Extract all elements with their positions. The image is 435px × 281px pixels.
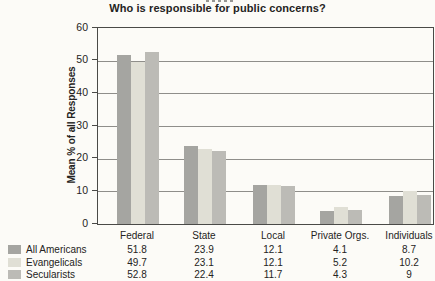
bar bbox=[267, 185, 281, 225]
legend-label: Secularists bbox=[26, 269, 75, 280]
legend-swatch bbox=[8, 258, 21, 267]
data-table: FederalStateLocalPrivate Orgs.Individual… bbox=[0, 226, 435, 281]
chart-title: Who is responsible for public concerns? bbox=[0, 2, 435, 14]
legend-swatch bbox=[8, 270, 21, 279]
bar bbox=[145, 52, 159, 225]
y-axis: 0102030405060 bbox=[0, 27, 97, 223]
bar bbox=[334, 207, 348, 224]
legend-label: All Americans bbox=[26, 244, 87, 255]
value-cell: 8.7 bbox=[367, 244, 435, 255]
bar-group bbox=[184, 28, 226, 224]
bar-group bbox=[389, 28, 431, 224]
value-cell: 10.2 bbox=[367, 257, 435, 268]
y-tick-label: 50 bbox=[58, 54, 88, 65]
bar bbox=[253, 185, 267, 225]
bar bbox=[184, 146, 198, 224]
bar bbox=[389, 196, 403, 224]
bar bbox=[281, 186, 295, 224]
bar bbox=[417, 195, 431, 224]
bar bbox=[403, 191, 417, 224]
legend-label: Evangelicals bbox=[26, 257, 82, 268]
bar-group bbox=[320, 28, 362, 224]
y-tick-label: 10 bbox=[58, 185, 88, 196]
y-tick-label: 60 bbox=[58, 22, 88, 33]
bar bbox=[348, 210, 362, 224]
bar bbox=[320, 211, 334, 224]
bar bbox=[131, 62, 145, 224]
legend-swatch bbox=[8, 245, 21, 254]
bar-group bbox=[117, 28, 159, 224]
y-tick-label: 20 bbox=[58, 152, 88, 163]
value-cell: 9 bbox=[367, 269, 435, 280]
bar bbox=[212, 151, 226, 224]
column-header: Individuals bbox=[367, 230, 435, 241]
figure: Who is responsible for public concerns? … bbox=[0, 0, 435, 281]
y-tick-label: 30 bbox=[58, 120, 88, 131]
plot-area bbox=[97, 27, 434, 225]
bar bbox=[198, 149, 212, 225]
bar-group bbox=[253, 28, 295, 224]
y-tick-label: 40 bbox=[58, 87, 88, 98]
bar bbox=[117, 55, 131, 224]
